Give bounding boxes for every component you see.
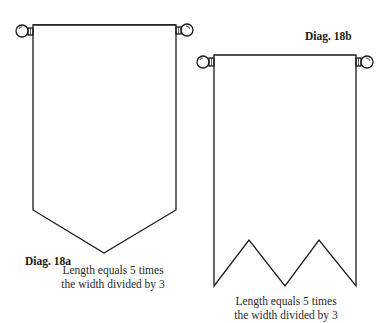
caption-18b-line2: the width divided by 3 [220,308,352,322]
caption-18a: Length equals 5 times the width divided … [48,263,178,291]
caption-18b-line1: Length equals 5 times [220,294,352,308]
diagram-label-18b: Diag. 18b [305,30,352,42]
finial-left-icon [197,56,214,68]
banner-18a-outline [33,25,176,253]
finial-right-icon [356,56,373,68]
finial-right-icon [176,24,193,36]
caption-18a-line2: the width divided by 3 [48,277,178,291]
finial-left-icon [16,25,33,37]
caption-18b: Length equals 5 times the width divided … [220,294,352,322]
banner-18b-outline [214,55,356,286]
caption-18a-line1: Length equals 5 times [48,263,178,277]
banner-18a [16,24,193,253]
banner-18b [197,55,373,286]
